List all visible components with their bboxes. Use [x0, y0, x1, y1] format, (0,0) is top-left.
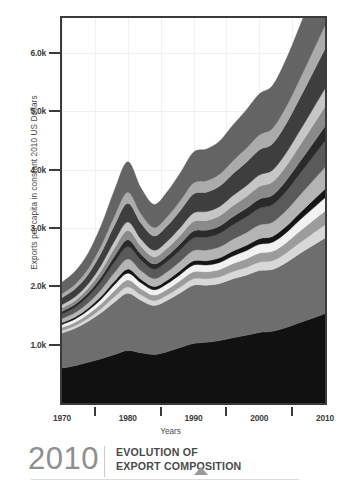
- y-tick: [49, 52, 60, 54]
- footer: 2010 EVOLUTION OF EXPORT COMPOSITION: [0, 443, 341, 481]
- y-tick: [49, 285, 60, 287]
- plot-area: [60, 16, 327, 405]
- x-axis-title: Years: [0, 427, 341, 436]
- footer-title-line2: EXPORT COMPOSITION: [116, 460, 241, 474]
- footer-title-line1: EVOLUTION OF: [116, 446, 241, 460]
- y-tick: [49, 110, 60, 112]
- y-tick-label: 2.0k: [0, 281, 46, 291]
- y-tick-label: 4.0k: [0, 165, 46, 175]
- y-tick: [49, 169, 60, 171]
- y-tick: [49, 227, 60, 229]
- y-tick-label: 5.0k: [0, 106, 46, 116]
- gridline-vertical: [325, 18, 326, 403]
- y-tick-label: 6.0k: [0, 48, 46, 58]
- footer-divider-rule: [31, 479, 299, 480]
- x-tick-label: 1980: [108, 413, 148, 423]
- x-minor-tick: [160, 407, 162, 416]
- x-minor-tick: [225, 407, 227, 416]
- x-minor-tick: [94, 407, 96, 416]
- plot-inner: [62, 18, 325, 403]
- x-tick-label: 1970: [42, 413, 82, 423]
- triangle-up-icon: [194, 467, 208, 475]
- chart-page: Exports per capita in constant 2010 US D…: [0, 0, 341, 481]
- footer-divider: [104, 446, 105, 477]
- x-tick-label: 2010: [305, 413, 341, 423]
- y-tick: [49, 344, 60, 346]
- footer-year: 2010: [28, 442, 99, 476]
- x-tick-label: 2000: [239, 413, 279, 423]
- x-tick-label: 1990: [174, 413, 214, 423]
- stacked-area-plot: [62, 18, 325, 403]
- x-minor-tick: [291, 407, 293, 416]
- chart-container: Exports per capita in constant 2010 US D…: [0, 0, 341, 440]
- footer-title: EVOLUTION OF EXPORT COMPOSITION: [116, 446, 241, 473]
- y-tick-label: 3.0k: [0, 223, 46, 233]
- y-tick-label: 1.0k: [0, 340, 46, 350]
